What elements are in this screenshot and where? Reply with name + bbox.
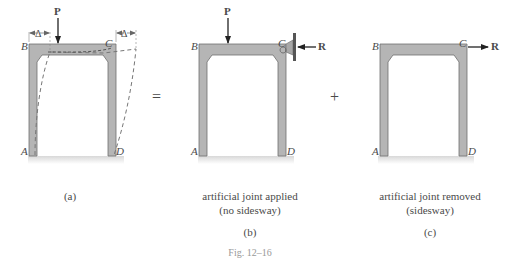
joint-label-b-b: B xyxy=(191,40,198,53)
figure-caption: Fig. 12–16 xyxy=(200,246,300,259)
panel-b-label: (b) xyxy=(220,226,280,239)
joint-label-d-b: D xyxy=(287,145,295,158)
joint-label-d-a: D xyxy=(116,145,124,158)
load-p-label-a: P xyxy=(54,5,61,18)
joint-label-b-a: B xyxy=(21,40,28,53)
joint-label-b-c: B xyxy=(372,40,379,53)
delta-right-label: Δ xyxy=(121,27,127,40)
joint-label-d-c: D xyxy=(468,145,476,158)
equals-sign: = xyxy=(152,90,161,103)
panel-c-description-line2: (sidesway) xyxy=(360,204,500,217)
joint-label-c-c: C xyxy=(459,37,466,50)
panel-a-label: (a) xyxy=(50,190,90,203)
panel-a-frame xyxy=(28,18,136,164)
joint-label-a-a: A xyxy=(21,145,28,158)
panel-b-description: artificial joint applied xyxy=(180,190,320,203)
reaction-r-label-b: R xyxy=(318,40,326,53)
panel-b-description-line2: (no sidesway) xyxy=(180,204,320,217)
reaction-r-label-c: R xyxy=(491,40,499,53)
plus-sign: + xyxy=(330,90,339,103)
load-p-label-b: P xyxy=(224,5,231,18)
panel-c-description: artificial joint removed xyxy=(360,190,500,203)
panel-c-label: (c) xyxy=(400,226,460,239)
joint-label-a-b: A xyxy=(191,145,198,158)
joint-label-c-b: C xyxy=(278,37,285,50)
joint-label-a-c: A xyxy=(372,145,379,158)
joint-label-c-a: C xyxy=(105,37,112,50)
delta-left-label: Δ xyxy=(35,27,41,40)
panel-b-frame xyxy=(198,18,316,164)
